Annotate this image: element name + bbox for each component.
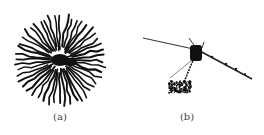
panel-a-label: (a) xyxy=(45,111,75,122)
panel-a-image xyxy=(0,0,132,112)
panel-b-image xyxy=(132,0,264,112)
panel-b-label: (b) xyxy=(172,111,202,122)
